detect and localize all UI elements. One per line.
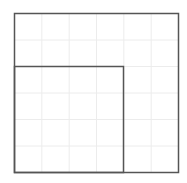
diagram-canvas (0, 0, 187, 183)
grid-lines (15, 14, 179, 173)
